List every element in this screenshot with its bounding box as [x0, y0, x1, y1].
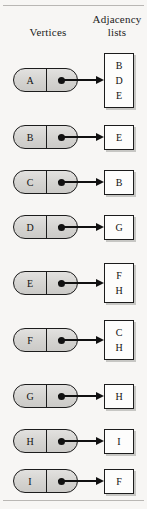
adjacency-list-box[interactable]: H — [104, 384, 134, 409]
pointer-arrow-icon — [58, 132, 106, 142]
vertex-label: D — [14, 216, 46, 238]
adjacency-entry: H — [115, 389, 122, 404]
adjacency-entry: B — [116, 58, 123, 73]
arrow-head — [96, 392, 104, 400]
adjacency-entry: F — [116, 474, 122, 489]
adjacency-list-diagram: Vertices Adjacency lists ABDEBECBDGEFHFC… — [0, 0, 147, 509]
vertex-label: C — [14, 171, 46, 193]
adjacency-entry: C — [116, 325, 123, 340]
top-divider-rule — [3, 5, 144, 6]
adjacency-entry: E — [116, 88, 122, 103]
adjacency-list-box[interactable]: E — [104, 125, 134, 150]
adjacency-list-box[interactable]: BDE — [104, 53, 134, 108]
vertex-label: G — [14, 385, 46, 407]
vertex-label: I — [14, 470, 46, 492]
adjacency-list-box[interactable]: G — [104, 215, 134, 240]
adjacency-entry: I — [117, 434, 120, 449]
vertex-label: B — [14, 126, 46, 148]
arrow-head — [96, 76, 104, 84]
pointer-arrow-icon — [58, 278, 106, 288]
pointer-arrow-icon — [58, 75, 106, 85]
arrow-shaft — [58, 79, 98, 80]
vertex-label: H — [14, 430, 46, 452]
adjacency-list-box[interactable]: FH — [104, 263, 134, 303]
arrow-head — [96, 178, 104, 186]
arrow-head — [96, 279, 104, 287]
arrow-head — [96, 336, 104, 344]
adjacency-list-box[interactable]: I — [104, 429, 134, 454]
pointer-arrow-icon — [58, 222, 106, 232]
arrow-shaft — [58, 480, 98, 481]
arrow-shaft — [58, 282, 98, 283]
adjacency-entry: B — [116, 175, 123, 190]
pointer-arrow-icon — [58, 436, 106, 446]
arrow-shaft — [58, 226, 98, 227]
vertices-column-heading: Vertices — [8, 26, 88, 39]
arrow-shaft — [58, 339, 98, 340]
adjacency-heading-line-2: lists — [88, 26, 146, 39]
vertex-label: E — [14, 272, 46, 294]
pointer-arrow-icon — [58, 177, 106, 187]
pointer-arrow-icon — [58, 476, 106, 486]
pointer-arrow-icon — [58, 335, 106, 345]
adjacency-column-heading: Adjacency lists — [88, 13, 146, 39]
arrow-head — [96, 223, 104, 231]
arrow-shaft — [58, 181, 98, 182]
vertex-label: A — [14, 69, 46, 91]
adjacency-entry: D — [115, 73, 122, 88]
adjacency-entry: H — [115, 283, 122, 298]
adjacency-entry: F — [116, 268, 122, 283]
adjacency-list-box[interactable]: F — [104, 469, 134, 494]
bottom-divider-rule — [3, 500, 144, 501]
arrow-head — [96, 133, 104, 141]
arrow-head — [96, 437, 104, 445]
pointer-arrow-icon — [58, 391, 106, 401]
adjacency-list-box[interactable]: B — [104, 170, 134, 195]
arrow-head — [96, 477, 104, 485]
adjacency-entry: G — [115, 220, 122, 235]
adjacency-entry: E — [116, 130, 122, 145]
adjacency-entry: H — [115, 340, 122, 355]
adjacency-list-box[interactable]: CH — [104, 320, 134, 360]
arrow-shaft — [58, 395, 98, 396]
arrow-shaft — [58, 136, 98, 137]
arrow-shaft — [58, 440, 98, 441]
adjacency-heading-line-1: Adjacency — [88, 13, 146, 26]
vertex-label: F — [14, 329, 46, 351]
